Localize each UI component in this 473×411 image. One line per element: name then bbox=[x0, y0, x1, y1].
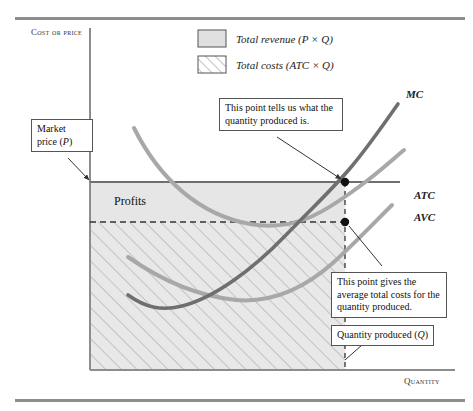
market-price-callout: Market price (P) bbox=[31, 119, 93, 152]
market-price-leader-line bbox=[68, 158, 89, 180]
curve-label-mc: MC bbox=[406, 88, 423, 100]
legend-swatch-total-revenue bbox=[198, 30, 226, 47]
equilibrium-point-dot bbox=[341, 178, 349, 186]
legend-swatch-total-costs bbox=[198, 56, 226, 73]
atc-point-dot bbox=[341, 218, 349, 226]
curve-label-atc: ATC bbox=[414, 189, 435, 201]
legend-label-total-costs: Total costs (ATC × Q) bbox=[236, 59, 334, 71]
profits-region-label: Profits bbox=[114, 194, 146, 209]
quantity-point-callout: This point tells us what the quantity pr… bbox=[219, 98, 343, 131]
y-axis-title: Cost or price bbox=[24, 27, 82, 38]
quantity-produced-callout: Quantity produced (Q) bbox=[331, 325, 434, 346]
quantity-point-leader-line bbox=[277, 137, 341, 179]
atc-point-callout: This point gives the average total costs… bbox=[331, 272, 447, 318]
market-price-line2: price (P) bbox=[37, 136, 87, 149]
curve-label-avc: AVC bbox=[414, 211, 435, 223]
legend-label-total-revenue: Total revenue (P × Q) bbox=[236, 33, 333, 45]
x-axis-title: Quantity bbox=[404, 376, 440, 387]
market-price-line1: Market bbox=[37, 123, 87, 136]
